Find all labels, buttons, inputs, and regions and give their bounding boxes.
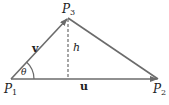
label-vector-v: v	[31, 42, 39, 55]
label-vector-u: u	[80, 80, 88, 93]
vector-v-arrow	[11, 19, 67, 79]
angle-arc	[27, 62, 35, 79]
label-p1: P1	[3, 82, 17, 97]
side-p3-p2	[68, 18, 158, 79]
label-height: h	[73, 41, 80, 54]
triangle-diagram: P3 P1 P2 v u h θ	[0, 0, 169, 105]
label-p3: P3	[61, 2, 75, 17]
label-p2: P2	[152, 82, 166, 97]
label-angle: θ	[21, 67, 27, 77]
